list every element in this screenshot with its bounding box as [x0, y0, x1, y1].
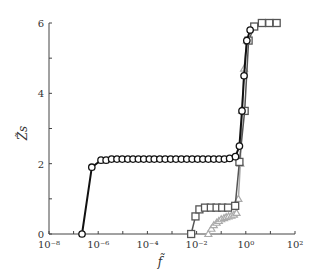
- y-tick-label: 4: [38, 88, 44, 99]
- data-point: [236, 143, 242, 149]
- y-tick-label: 0: [38, 229, 44, 240]
- data-point: [258, 20, 265, 27]
- data-point: [192, 213, 199, 220]
- data-point: [89, 164, 95, 170]
- chart: 10⁻⁸10⁻⁶10⁻⁴10⁻²10⁰10²0246 f̃ Z̃s: [0, 0, 317, 276]
- data-point: [247, 27, 253, 33]
- data-point: [188, 231, 195, 238]
- y-tick-label: 2: [38, 159, 44, 170]
- series-line-circles: [82, 30, 250, 234]
- x-tick-label: 10⁰: [237, 239, 254, 250]
- data-point: [79, 231, 85, 237]
- data-point: [241, 73, 247, 79]
- data-point: [266, 20, 273, 27]
- x-axis-label: f̃: [157, 253, 165, 269]
- x-tick-label: 10⁻⁶: [87, 239, 109, 250]
- data-point: [225, 204, 232, 211]
- data-point: [239, 108, 245, 114]
- data-point: [273, 20, 280, 27]
- data-point: [244, 37, 250, 43]
- plot-area: [79, 20, 280, 238]
- x-tick-label: 10⁻⁴: [136, 239, 158, 250]
- axes: 10⁻⁸10⁻⁶10⁻⁴10⁻²10⁰10²0246: [38, 18, 304, 250]
- x-tick-label: 10⁻⁸: [38, 239, 60, 250]
- y-tick-label: 6: [38, 18, 44, 29]
- data-point: [232, 202, 239, 209]
- data-point: [232, 153, 238, 159]
- x-tick-label: 10⁻²: [186, 239, 208, 250]
- y-axis-label: Z̃s: [15, 126, 30, 142]
- x-tick-label: 10²: [287, 239, 304, 250]
- series-markers-squares: [188, 20, 281, 238]
